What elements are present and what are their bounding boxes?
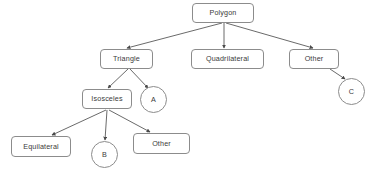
node-a_circle[interactable]: A: [140, 86, 167, 113]
node-polygon[interactable]: Polygon: [192, 3, 254, 23]
edge-isosceles-to-equilateral: [52, 110, 106, 135]
edge-other_top-to-c_circle: [330, 69, 345, 79]
node-other_top[interactable]: Other: [289, 49, 339, 69]
edge-triangle-to-a_circle: [130, 69, 148, 88]
edge-isosceles-to-other_bottom: [109, 110, 150, 132]
node-label-equilateral: Equilateral: [23, 143, 59, 150]
node-label-a_circle: A: [151, 96, 156, 103]
node-label-other_bottom: Other: [152, 140, 171, 147]
node-label-b_circle: B: [102, 151, 107, 158]
edges: [52, 23, 345, 140]
node-label-triangle: Triangle: [113, 55, 140, 62]
edge-triangle-to-isosceles: [108, 69, 128, 88]
edge-polygon-to-triangle: [127, 23, 222, 48]
node-label-isosceles: Isosceles: [91, 95, 122, 102]
node-label-polygon: Polygon: [209, 9, 236, 16]
node-isosceles[interactable]: Isosceles: [82, 89, 132, 109]
node-c_circle[interactable]: C: [338, 78, 365, 105]
node-label-quadrilateral: Quadrilateral: [206, 55, 249, 62]
node-other_bottom[interactable]: Other: [133, 133, 190, 154]
node-label-other_top: Other: [305, 55, 324, 62]
edge-isosceles-to-b_circle: [105, 110, 107, 140]
node-equilateral[interactable]: Equilateral: [11, 136, 71, 157]
node-quadrilateral[interactable]: Quadrilateral: [191, 49, 264, 69]
edge-polygon-to-other_top: [226, 23, 313, 48]
node-label-c_circle: C: [349, 88, 354, 95]
node-triangle[interactable]: Triangle: [100, 49, 153, 69]
node-b_circle[interactable]: B: [91, 141, 118, 168]
diagram-canvas: PolygonTriangleQuadrilateralOtherCIsosce…: [0, 0, 374, 177]
